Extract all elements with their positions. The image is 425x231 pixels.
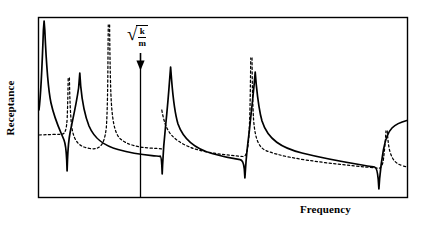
plot-canvas (0, 0, 425, 231)
y-axis-label: Receptance (0, 100, 56, 116)
mass-symbol: m (138, 38, 146, 48)
receptance-frequency-figure: √ k m Receptance Frequency (0, 0, 425, 231)
stiffness-symbol: k (140, 26, 145, 36)
plot-frame (39, 18, 408, 198)
radicand-fraction: k m (136, 25, 148, 48)
x-axis-label: Frequency (300, 203, 351, 215)
y-axis-label-text: Receptance (4, 81, 16, 136)
natural-frequency-annotation: √ k m (127, 22, 148, 56)
